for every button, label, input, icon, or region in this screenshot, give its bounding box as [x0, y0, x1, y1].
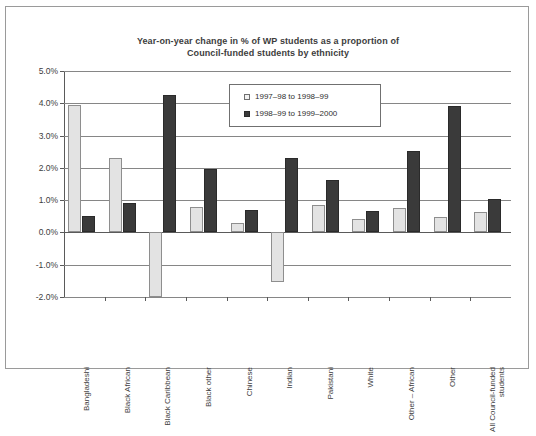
bar-2 — [82, 216, 95, 232]
x-tick-mark — [227, 297, 228, 301]
y-tick-mark — [60, 265, 64, 266]
bar-2 — [407, 151, 420, 232]
bar-1 — [393, 208, 406, 233]
bar-1 — [68, 105, 81, 233]
bar-1 — [231, 223, 244, 233]
legend-item-series-2: 1998–99 to 1999–2000 — [244, 109, 337, 118]
y-axis-tick-label: 5.0% — [39, 66, 58, 76]
bar-1 — [434, 217, 447, 232]
y-tick-mark — [60, 103, 64, 104]
y-tick-mark — [60, 71, 64, 72]
x-axis-category-label: Black Caribbean — [163, 367, 172, 426]
bar-1 — [149, 232, 162, 297]
y-axis-tick-label: -1.0% — [36, 260, 58, 270]
y-axis-tick-label: 0.0% — [39, 227, 58, 237]
bar-group — [149, 71, 190, 297]
bar-2 — [326, 180, 339, 233]
chart-title-line-2: Council-funded students by ethnicity — [6, 47, 530, 59]
bar-2 — [163, 95, 176, 232]
y-axis-tick-label: -2.0% — [36, 292, 58, 302]
legend-label-series-1: 1997–98 to 1998–99 — [255, 92, 328, 101]
y-tick-mark — [60, 297, 64, 298]
bar-2 — [204, 169, 217, 233]
chart-legend: 1997–98 to 1998–99 1998–99 to 1999–2000 — [229, 84, 381, 127]
bar-2 — [285, 158, 298, 232]
gridline--2.0% — [64, 297, 511, 298]
x-axis-category-label: Black other — [204, 367, 213, 407]
bar-group — [434, 71, 475, 297]
bar-1 — [474, 212, 487, 233]
x-tick-mark — [348, 297, 349, 301]
y-axis-tick-label: 1.0% — [39, 195, 58, 205]
legend-label-series-2: 1998–99 to 1999–2000 — [255, 109, 337, 118]
x-tick-mark — [105, 297, 106, 301]
x-tick-mark — [145, 297, 146, 301]
x-axis-category-label: Pakistani — [326, 367, 335, 399]
x-tick-mark — [389, 297, 390, 301]
x-tick-mark — [308, 297, 309, 301]
x-tick-mark — [186, 297, 187, 301]
bar-group — [109, 71, 150, 297]
chart-title: Year-on-year change in % of WP students … — [6, 35, 530, 59]
chart-title-line-1: Year-on-year change in % of WP students … — [137, 36, 399, 46]
y-tick-mark — [60, 168, 64, 169]
bar-1 — [352, 219, 365, 233]
y-tick-mark — [60, 200, 64, 201]
bar-group — [68, 71, 109, 297]
y-axis-tick-label: 3.0% — [39, 131, 58, 141]
bar-1 — [109, 158, 122, 232]
x-tick-mark — [470, 297, 471, 301]
legend-item-series-1: 1997–98 to 1998–99 — [244, 92, 328, 101]
x-axis-category-label: All Council-funded students — [488, 367, 506, 436]
x-axis-category-label: Bangladeshi — [82, 367, 91, 411]
y-axis-tick-label: 2.0% — [39, 163, 58, 173]
chart-frame: Year-on-year change in % of WP students … — [5, 6, 529, 369]
y-axis-line — [64, 71, 65, 297]
bar-2 — [123, 203, 136, 233]
x-axis-category-label: Other — [448, 367, 457, 387]
x-tick-mark — [267, 297, 268, 301]
bar-2 — [448, 106, 461, 232]
bar-1 — [271, 232, 284, 282]
bar-2 — [488, 199, 501, 233]
x-tick-mark — [430, 297, 431, 301]
y-tick-mark — [60, 136, 64, 137]
bar-group — [474, 71, 515, 297]
legend-swatch-series-2 — [244, 111, 250, 117]
bar-group — [190, 71, 231, 297]
x-axis-category-label: Indian — [285, 367, 294, 389]
x-axis-category-label: Black African — [123, 367, 132, 413]
x-axis-category-label: White — [366, 367, 375, 387]
y-axis-tick-label: 4.0% — [39, 98, 58, 108]
bar-1 — [190, 207, 203, 232]
x-axis-category-label: Chinese — [245, 367, 254, 396]
bar-2 — [245, 210, 258, 232]
y-tick-mark — [60, 232, 64, 233]
bar-group — [393, 71, 434, 297]
x-axis-category-label: Other – African — [407, 367, 416, 420]
legend-swatch-series-1 — [244, 94, 250, 100]
bar-2 — [366, 211, 379, 232]
bar-1 — [312, 205, 325, 233]
